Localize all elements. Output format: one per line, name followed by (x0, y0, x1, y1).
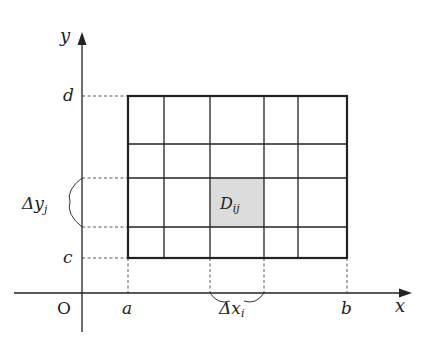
y-axis-arrow-icon (78, 32, 87, 45)
x-axis-label: x (395, 295, 405, 316)
delta-y-label: Δyj (21, 193, 48, 216)
delta-y-brace (69, 178, 82, 227)
delta-x-label: Δxi (218, 298, 244, 320)
region-boundary (128, 96, 347, 258)
partition-diagram: y x O a b c d Dij Δyj Δxi (0, 0, 423, 358)
partition-grid (128, 96, 347, 258)
x-tick-a: a (122, 298, 132, 318)
x-tick-b: b (341, 298, 352, 318)
y-tick-d: d (63, 85, 74, 105)
origin-label: O (57, 298, 71, 318)
y-axis-label: y (59, 25, 71, 46)
axes (14, 38, 404, 332)
y-tick-c: c (63, 247, 73, 267)
